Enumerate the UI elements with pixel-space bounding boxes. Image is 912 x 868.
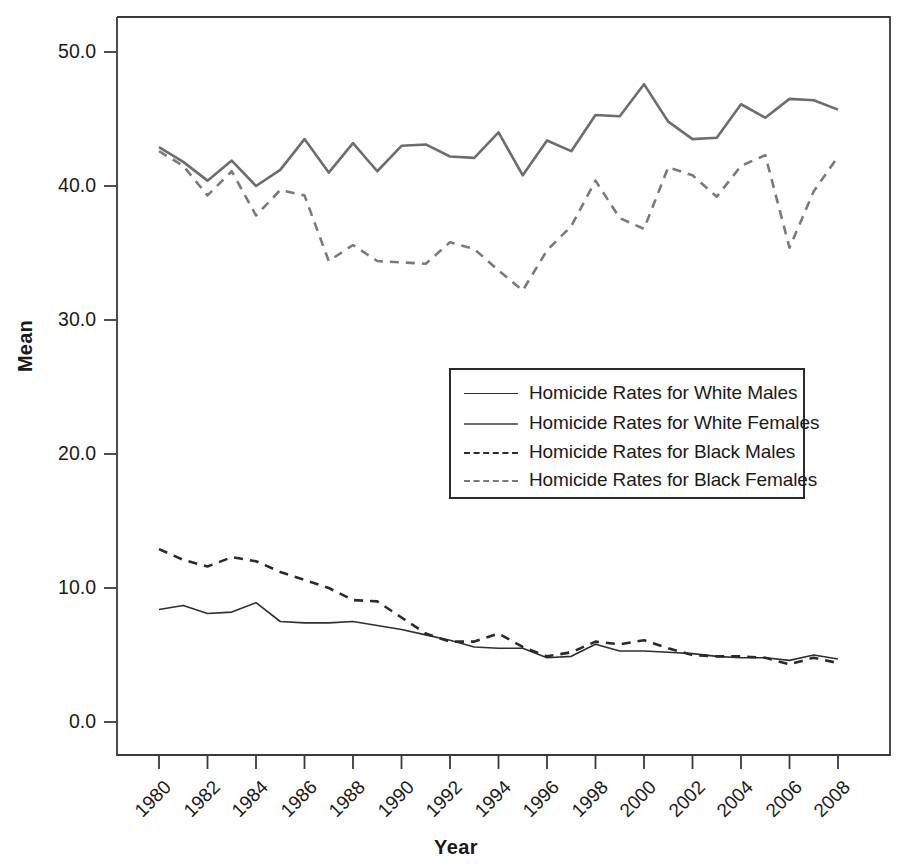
legend-label: Homicide Rates for Black Males [529,442,795,461]
legend-label: Homicide Rates for White Females [529,413,819,432]
chart-legend: Homicide Rates for White Males Homicide … [449,368,805,499]
x-axis-title: Year [0,836,912,859]
series-line [159,603,838,661]
y-axis-tick-label: 40.0 [10,176,96,196]
solid-dark-line-icon [464,386,518,400]
dashed-dark-line-icon [464,445,518,459]
y-axis-ticks [104,52,117,722]
y-axis-tick-label: 0.0 [10,712,96,732]
y-axis-title: Mean [14,320,37,372]
legend-item-white-males[interactable]: Homicide Rates for White Males [451,378,803,407]
series-line [159,151,838,290]
y-axis-tick-label: 10.0 [10,578,96,598]
line-chart: 0.010.020.030.040.050.0 1980198219841986… [0,0,912,868]
x-axis-ticks [159,755,838,769]
legend-item-black-males[interactable]: Homicide Rates for Black Males [451,437,803,466]
legend-label: Homicide Rates for White Males [529,383,797,402]
dashed-grey-line-icon [464,473,518,487]
legend-label: Homicide Rates for Black Females [529,470,817,489]
legend-item-white-females[interactable]: Homicide Rates for White Females [451,408,803,437]
y-axis-tick-label: 20.0 [10,444,96,464]
y-axis-tick-label: 50.0 [10,42,96,62]
solid-grey-line-icon [464,416,518,430]
legend-item-black-females[interactable]: Homicide Rates for Black Females [451,465,803,494]
